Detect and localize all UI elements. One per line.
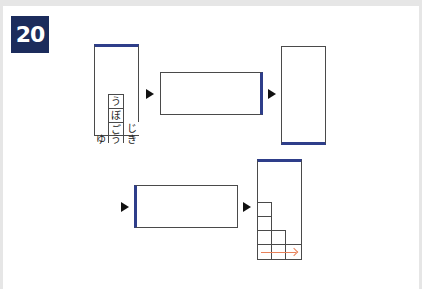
grid-cell-yu: ゆ [94, 135, 109, 143]
puzzle-card [3, 6, 419, 289]
grid-cell-ki: き [123, 135, 139, 143]
grid-line [257, 216, 272, 217]
step3-box [281, 46, 326, 145]
right-arrow-icon [261, 252, 296, 253]
right-triangle-icon [146, 89, 154, 99]
step2-box [160, 72, 263, 115]
right-triangle-icon [268, 89, 276, 99]
right-triangle-icon [121, 202, 129, 212]
grid-cell-u1: う [108, 94, 124, 109]
grid-line [257, 202, 272, 203]
step4-box [134, 185, 238, 228]
grid-cell-bo: ぼ [108, 108, 124, 123]
problem-number-badge: 20 [11, 16, 49, 53]
grid-cell-u2: う [108, 135, 124, 143]
right-triangle-icon [243, 202, 251, 212]
grid-line [285, 230, 286, 260]
grid-line [257, 244, 302, 245]
